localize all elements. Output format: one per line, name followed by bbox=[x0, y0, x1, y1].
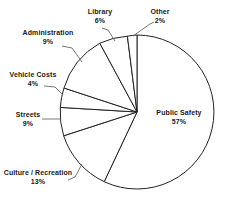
pie-label-vehicle-costs: Vehicle Costs 4% bbox=[2, 70, 64, 88]
pie-label-vehicle-costs-name: Vehicle Costs bbox=[2, 70, 64, 79]
pie-label-administration-value: 9% bbox=[14, 37, 82, 46]
pie-label-vehicle-costs-value: 4% bbox=[2, 79, 64, 88]
pie-label-culture-recreation-name: Culture / Recreation bbox=[2, 168, 74, 177]
pie-label-streets-value: 9% bbox=[4, 119, 52, 128]
pie-label-streets-name: Streets bbox=[4, 110, 52, 119]
pie-label-library-value: 6% bbox=[78, 16, 122, 25]
pie-label-administration: Administration 9% bbox=[14, 28, 82, 46]
pie-label-administration-name: Administration bbox=[14, 28, 82, 37]
pie-label-public-safety-name: Public Safety bbox=[148, 108, 210, 117]
pie-label-other-name: Other bbox=[140, 7, 180, 16]
pie-label-other-value: 2% bbox=[140, 16, 180, 25]
pie-label-public-safety: Public Safety 57% bbox=[148, 108, 210, 126]
pie-label-culture-recreation: Culture / Recreation 13% bbox=[2, 168, 74, 186]
pie-label-library: Library 6% bbox=[78, 7, 122, 25]
pie-label-public-safety-value: 57% bbox=[148, 117, 210, 126]
pie-chart: Library 6% Other 2% Administration 9% Ve… bbox=[0, 0, 227, 205]
pie-label-library-name: Library bbox=[78, 7, 122, 16]
pie-label-streets: Streets 9% bbox=[4, 110, 52, 128]
pie-label-culture-recreation-value: 13% bbox=[2, 177, 74, 186]
pie-label-other: Other 2% bbox=[140, 7, 180, 25]
